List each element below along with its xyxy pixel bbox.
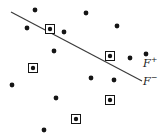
- f-positive-superscript: +: [151, 55, 158, 64]
- highlighted-data-point: [106, 96, 115, 105]
- data-point: [115, 24, 120, 29]
- region-label-f-negative: F−: [143, 76, 157, 87]
- data-point: [52, 49, 57, 54]
- data-point: [10, 83, 15, 88]
- data-point: [62, 30, 67, 35]
- data-point: [144, 52, 149, 57]
- highlighted-data-point: [72, 115, 81, 124]
- highlighted-data-point: [29, 64, 38, 73]
- f-negative-superscript: −: [151, 73, 158, 82]
- data-point: [54, 96, 59, 101]
- data-point: [74, 117, 78, 121]
- highlighted-data-point: [46, 25, 55, 34]
- data-point: [25, 26, 30, 31]
- data-point: [89, 76, 94, 81]
- boxed-data-points: [29, 25, 115, 124]
- region-label-f-positive: F+: [143, 58, 157, 69]
- data-point: [108, 98, 112, 102]
- data-point: [112, 78, 117, 83]
- data-point: [33, 8, 38, 13]
- figure-container: F+ F−: [0, 0, 168, 139]
- data-point: [84, 11, 89, 16]
- highlighted-data-point: [106, 52, 115, 61]
- data-point: [31, 66, 35, 70]
- data-point: [48, 27, 52, 31]
- data-point: [108, 54, 112, 58]
- data-point: [128, 56, 133, 61]
- data-point: [42, 128, 47, 133]
